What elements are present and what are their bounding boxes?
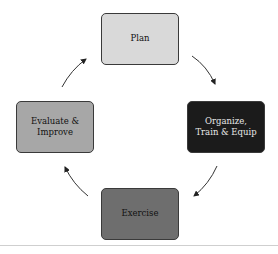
- node-evaluate-label-line1: Evaluate &: [31, 116, 79, 127]
- arrow-organize-to-exercise: [194, 166, 217, 196]
- node-organize-train-equip: Organize, Train & Equip: [187, 101, 265, 153]
- node-plan-label: Plan: [131, 33, 150, 44]
- arrow-evaluate-to-plan: [62, 59, 86, 87]
- node-organize-label-line2: Train & Equip: [195, 127, 256, 138]
- arrow-plan-to-organize: [192, 56, 215, 84]
- node-organize-label-line1: Organize,: [195, 116, 256, 127]
- node-evaluate-label-line2: Improve: [31, 127, 79, 138]
- bottom-divider: [0, 245, 278, 246]
- node-plan: Plan: [101, 13, 179, 65]
- node-evaluate-improve: Evaluate & Improve: [16, 101, 94, 153]
- arrow-exercise-to-evaluate: [65, 167, 88, 196]
- node-exercise: Exercise: [101, 188, 179, 240]
- node-exercise-label: Exercise: [122, 208, 159, 219]
